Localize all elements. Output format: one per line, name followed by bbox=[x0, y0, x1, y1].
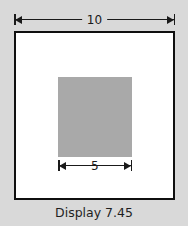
outer-square: 5 bbox=[14, 31, 175, 200]
inner-shaded-square bbox=[58, 77, 132, 157]
dimension-line-inner-width: 5 bbox=[58, 159, 132, 173]
dimension-label-inner-width: 5 bbox=[86, 160, 104, 172]
dimension-line-outer-width: 10 bbox=[14, 13, 175, 27]
figure-caption: Display 7.45 bbox=[0, 206, 188, 220]
arrow-right-icon bbox=[124, 162, 131, 170]
dimension-label-outer-width: 10 bbox=[82, 14, 108, 26]
arrow-left-icon bbox=[15, 16, 22, 24]
figure-container: 10 5 Display 7.45 bbox=[0, 0, 188, 226]
arrow-right-icon bbox=[167, 16, 174, 24]
arrow-left-icon bbox=[59, 162, 66, 170]
